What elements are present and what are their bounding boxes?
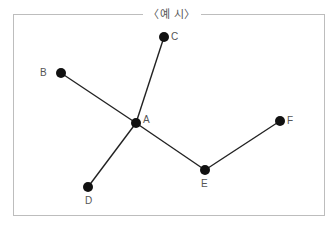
node-e [200, 165, 210, 175]
label-a: A [143, 114, 150, 125]
edge-a-b [61, 73, 136, 123]
node-a [131, 118, 141, 128]
label-e: E [201, 178, 208, 189]
node-f [275, 116, 285, 126]
label-f: F [287, 115, 293, 126]
labels: A B C D E F [40, 31, 293, 206]
label-b: B [40, 67, 47, 78]
node-d [83, 182, 93, 192]
node-b [56, 68, 66, 78]
label-c: C [171, 31, 178, 42]
edge-a-c [136, 37, 164, 123]
nodes [56, 32, 285, 192]
edges [61, 37, 280, 187]
edge-e-f [205, 121, 280, 170]
label-d: D [85, 195, 92, 206]
node-c [159, 32, 169, 42]
graph-canvas: A B C D E F [0, 0, 336, 229]
edge-a-d [88, 123, 136, 187]
edge-a-e [136, 123, 205, 170]
